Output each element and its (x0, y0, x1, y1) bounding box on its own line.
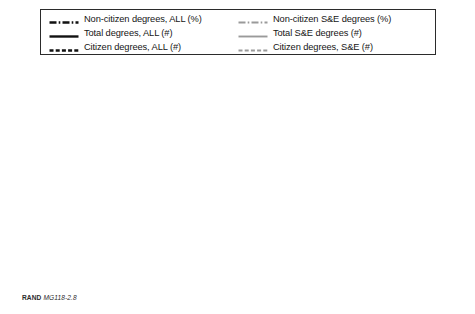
legend-item[interactable]: Citizen degrees, S&E (#) (238, 41, 391, 54)
legend-item[interactable]: Non-citizen S&E degrees (%) (238, 13, 391, 26)
legend-item-label: Non-citizen S&E degrees (%) (273, 14, 391, 25)
legend-line-swatch-icon (238, 28, 268, 39)
legend-item-label: Citizen degrees, S&E (#) (273, 42, 373, 53)
caption-publisher: RAND (22, 294, 41, 301)
caption-code: MG118-2.8 (43, 294, 76, 301)
legend-column-all: Non-citizen degrees, ALL (%)Total degree… (49, 13, 202, 55)
legend-item[interactable]: Non-citizen degrees, ALL (%) (49, 13, 202, 26)
chart-legend: Non-citizen degrees, ALL (%)Total degree… (40, 9, 436, 55)
legend-item[interactable]: Total S&E degrees (#) (238, 27, 391, 40)
legend-item-label: Citizen degrees, ALL (#) (84, 42, 181, 53)
legend-line-swatch-icon (49, 42, 79, 53)
legend-item-label: Total S&E degrees (#) (273, 28, 362, 39)
legend-item-label: Total degrees, ALL (#) (84, 28, 172, 39)
legend-item-label: Non-citizen degrees, ALL (%) (84, 14, 202, 25)
legend-column-se: Non-citizen S&E degrees (%)Total S&E deg… (238, 13, 391, 55)
legend-line-swatch-icon (238, 14, 268, 25)
figure-caption: RAND MG118-2.8 (22, 294, 77, 301)
legend-item[interactable]: Total degrees, ALL (#) (49, 27, 202, 40)
legend-line-swatch-icon (49, 28, 79, 39)
legend-line-swatch-icon (49, 14, 79, 25)
legend-item[interactable]: Citizen degrees, ALL (#) (49, 41, 202, 54)
legend-line-swatch-icon (238, 42, 268, 53)
figure-container: Non-citizen degrees, ALL (%)Total degree… (0, 0, 475, 314)
